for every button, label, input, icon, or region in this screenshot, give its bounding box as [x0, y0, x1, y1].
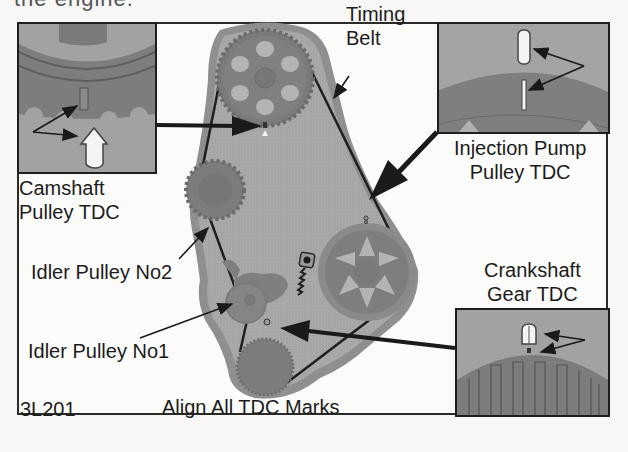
- label-crankshaft-gear-tdc: Crankshaft Gear TDC: [484, 258, 581, 306]
- injection-pump-tdc-detail: [439, 24, 608, 132]
- caption-align-tdc-marks: Align All TDC Marks: [162, 395, 339, 419]
- camshaft-pulley-tdc-inset: [17, 22, 157, 174]
- label-camshaft-line1: Camshaft: [19, 176, 120, 200]
- crankshaft-tdc-detail: [457, 310, 608, 415]
- label-injection-pump-line1: Injection Pump: [454, 136, 586, 160]
- figure-id: 3L201: [20, 397, 76, 421]
- idler-pulley-no2: [186, 161, 244, 219]
- label-crankshaft-line1: Crankshaft: [484, 258, 581, 282]
- label-crankshaft-line2: Gear TDC: [484, 282, 581, 306]
- label-idler-pulley-no2: Idler Pulley No2: [31, 260, 172, 284]
- label-camshaft-line2: Pulley TDC: [19, 200, 120, 224]
- label-injection-pump-pulley-tdc: Injection Pump Pulley TDC: [454, 136, 586, 184]
- injection-pump-pulley-tdc-inset: [437, 22, 610, 134]
- label-idler-pulley-no1: Idler Pulley No1: [28, 339, 169, 363]
- idler-pulley-no1: [226, 283, 266, 323]
- label-timing-belt-line1: Timing: [346, 2, 405, 26]
- camshaft-tdc-detail: [19, 24, 155, 172]
- label-timing-belt-line2: Belt: [346, 26, 405, 50]
- label-timing-belt: Timing Belt: [346, 2, 405, 50]
- label-injection-pump-line2: Pulley TDC: [454, 160, 586, 184]
- label-camshaft-pulley-tdc: Camshaft Pulley TDC: [19, 176, 120, 224]
- crankshaft-gear-tdc-inset: [455, 308, 610, 417]
